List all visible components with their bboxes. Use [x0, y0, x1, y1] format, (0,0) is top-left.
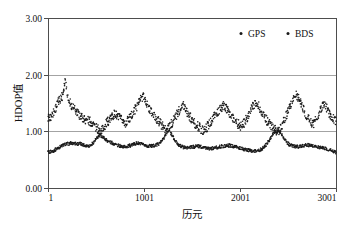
data-point	[51, 111, 53, 113]
data-point	[228, 114, 230, 116]
data-point	[52, 116, 54, 118]
data-point	[239, 127, 241, 129]
data-point	[83, 143, 85, 145]
data-point	[180, 144, 182, 146]
data-point	[80, 118, 82, 120]
data-point	[210, 121, 212, 123]
data-point	[204, 126, 206, 128]
data-point	[261, 111, 263, 113]
data-point	[233, 114, 235, 116]
data-point	[71, 103, 73, 105]
data-point	[266, 115, 268, 117]
data-point	[207, 121, 209, 123]
data-point	[89, 116, 91, 118]
data-point	[113, 117, 115, 119]
data-point	[250, 107, 252, 109]
data-point	[227, 106, 229, 108]
data-point	[184, 108, 186, 110]
data-point	[298, 94, 300, 96]
data-point	[148, 146, 150, 148]
data-point	[254, 107, 256, 109]
data-point	[310, 122, 312, 124]
data-point	[131, 111, 133, 113]
data-point	[60, 94, 62, 96]
data-point	[102, 125, 104, 127]
data-point	[302, 111, 304, 113]
data-point	[318, 117, 320, 119]
data-point	[257, 106, 259, 108]
data-point	[167, 128, 169, 130]
data-point	[87, 116, 89, 118]
legend-marker-gps-icon	[240, 32, 243, 35]
data-point	[121, 115, 123, 117]
data-point	[134, 142, 136, 144]
data-point	[194, 118, 196, 120]
x-tick-label: 1001	[135, 193, 154, 203]
data-point	[177, 113, 179, 115]
data-point	[158, 125, 160, 127]
data-point	[303, 106, 305, 108]
data-point	[277, 132, 279, 134]
data-point	[55, 110, 57, 112]
data-point	[278, 127, 280, 129]
data-point	[89, 118, 91, 120]
data-point	[99, 133, 101, 135]
data-point	[198, 130, 200, 132]
data-point	[273, 127, 275, 129]
data-point	[289, 103, 291, 105]
data-point	[179, 113, 181, 115]
data-point	[238, 119, 240, 121]
data-point	[329, 110, 331, 112]
data-point	[117, 116, 119, 118]
data-point	[333, 122, 335, 124]
data-point	[224, 108, 226, 110]
data-point	[335, 120, 337, 122]
data-point	[163, 138, 165, 140]
data-point	[245, 120, 247, 122]
data-point	[225, 110, 227, 112]
data-point	[101, 135, 103, 137]
data-point	[108, 120, 110, 122]
data-point	[293, 100, 295, 102]
data-point	[213, 118, 215, 120]
data-point	[318, 112, 320, 114]
data-point	[97, 124, 99, 126]
data-point	[172, 124, 174, 126]
data-point	[281, 133, 283, 135]
data-point	[83, 118, 85, 120]
data-point	[201, 128, 203, 130]
data-point	[248, 117, 250, 119]
data-point	[109, 118, 111, 120]
data-point	[134, 107, 136, 109]
data-point	[78, 109, 80, 111]
data-point	[262, 113, 264, 115]
data-point	[149, 113, 151, 115]
data-point	[272, 129, 274, 131]
data-point	[212, 121, 214, 123]
data-point	[189, 119, 191, 121]
data-point	[274, 125, 276, 127]
data-point	[172, 122, 174, 124]
data-point	[221, 107, 223, 109]
data-point	[208, 149, 210, 151]
data-point	[73, 108, 75, 110]
data-point	[173, 136, 175, 138]
data-point	[96, 123, 98, 125]
data-point	[285, 120, 287, 122]
data-point	[216, 145, 218, 147]
data-point	[105, 124, 107, 126]
data-point	[198, 129, 200, 131]
data-point	[272, 123, 274, 125]
data-point	[228, 144, 230, 146]
data-point	[67, 94, 69, 96]
x-axis-title: 历元	[182, 209, 203, 220]
data-point	[107, 116, 109, 118]
data-point	[331, 117, 333, 119]
data-point	[208, 125, 210, 127]
data-point	[116, 111, 118, 113]
data-point	[309, 119, 311, 121]
data-point	[84, 115, 86, 117]
data-point	[279, 129, 281, 131]
data-point	[57, 99, 59, 101]
data-point	[193, 120, 195, 122]
